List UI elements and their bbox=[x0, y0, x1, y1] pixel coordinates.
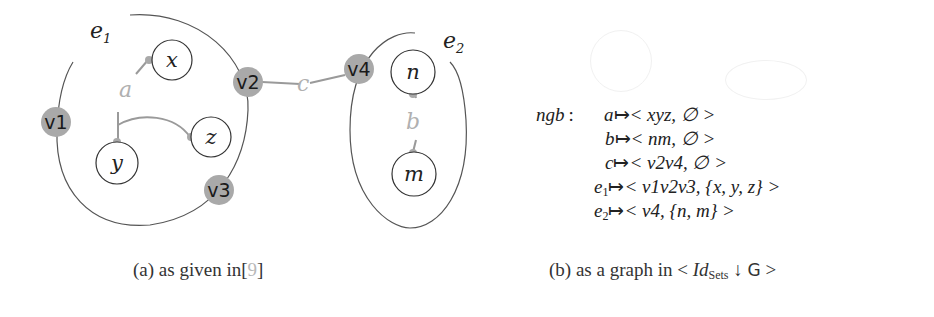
hyperedge-e2-label: e2 bbox=[443, 28, 464, 56]
svg-text:v2: v2 bbox=[236, 71, 259, 93]
port-v4: v4 bbox=[344, 54, 374, 84]
maps-to-arrow-icon: ↦ bbox=[608, 200, 624, 221]
node-y: y bbox=[96, 142, 138, 184]
edge-b-label: b bbox=[406, 109, 420, 134]
down-arrow-icon: ↓ bbox=[733, 259, 743, 280]
svg-text:y: y bbox=[110, 151, 124, 175]
caption-b-id-sub: Sets bbox=[709, 268, 729, 282]
mapping-value: < xyz, ∅ > bbox=[630, 104, 716, 125]
caption-b-text: (b) as a graph in < bbox=[549, 259, 688, 280]
background-ghost-circle bbox=[590, 30, 652, 92]
mapping-value: < nm, ∅ > bbox=[631, 128, 716, 149]
port-v3: v3 bbox=[204, 175, 234, 205]
citation-link[interactable]: 9 bbox=[247, 259, 257, 280]
node-z: z bbox=[191, 117, 231, 157]
svg-text:m: m bbox=[404, 162, 424, 186]
maps-to-arrow-icon: ↦ bbox=[615, 128, 631, 149]
caption-a-text: (a) as given in bbox=[133, 259, 241, 280]
citation-bracket-close: ] bbox=[257, 259, 263, 280]
node-m: m bbox=[392, 152, 436, 196]
edge-a-label: a bbox=[119, 77, 132, 102]
edge-c: c bbox=[262, 71, 345, 96]
mapping-row-e1: e1↦< v1v2v3, {x, y, z} > bbox=[594, 175, 780, 199]
mapping-row-c: c↦< v2v4, ∅ > bbox=[605, 151, 727, 175]
background-ghost-circle bbox=[725, 60, 807, 100]
maps-to-arrow-icon: ↦ bbox=[608, 176, 624, 197]
edge-b: b bbox=[406, 90, 420, 157]
mapping-header: ngb: bbox=[536, 103, 574, 127]
mapping-key: b bbox=[605, 128, 615, 149]
maps-to-arrow-icon: ↦ bbox=[614, 104, 630, 125]
port-v2: v2 bbox=[233, 67, 263, 97]
caption-b-close: > bbox=[765, 259, 776, 280]
mapping-value: < v4, {n, m} > bbox=[624, 200, 735, 221]
mapping-row-b: b↦< nm, ∅ > bbox=[605, 127, 715, 151]
mapping-value: < v1v2v3, {x, y, z} > bbox=[624, 176, 780, 197]
caption-b: (b) as a graph in < IdSets ↓ G > bbox=[549, 259, 776, 283]
svg-text:n: n bbox=[406, 60, 420, 84]
maps-to-arrow-icon: ↦ bbox=[613, 152, 629, 173]
port-v1: v1 bbox=[41, 107, 71, 137]
mapping-separator: : bbox=[569, 104, 574, 125]
node-n: n bbox=[391, 50, 435, 94]
node-x: x bbox=[152, 40, 192, 80]
svg-text:v1: v1 bbox=[44, 111, 67, 133]
svg-text:x: x bbox=[166, 48, 178, 72]
mapping-row-e2: e2↦< v4, {n, m} > bbox=[594, 199, 735, 223]
mapping-value: < v2v4, ∅ > bbox=[629, 152, 727, 173]
caption-a: (a) as given in[9] bbox=[133, 259, 263, 281]
caption-b-category: G bbox=[748, 260, 761, 280]
edge-c-label: c bbox=[297, 71, 309, 96]
svg-text:v3: v3 bbox=[207, 179, 230, 201]
svg-text:v4: v4 bbox=[347, 58, 370, 80]
hyperedge-e1-label: e1 bbox=[90, 18, 111, 46]
svg-text:z: z bbox=[204, 125, 217, 149]
hypergraph-diagram: e1 e2 a b c x y z n bbox=[0, 0, 520, 250]
mapping-name: ngb bbox=[536, 104, 565, 125]
caption-b-id: Id bbox=[693, 259, 709, 280]
mapping-row-a: a↦< xyz, ∅ > bbox=[604, 103, 715, 127]
mapping-key: a bbox=[604, 104, 614, 125]
